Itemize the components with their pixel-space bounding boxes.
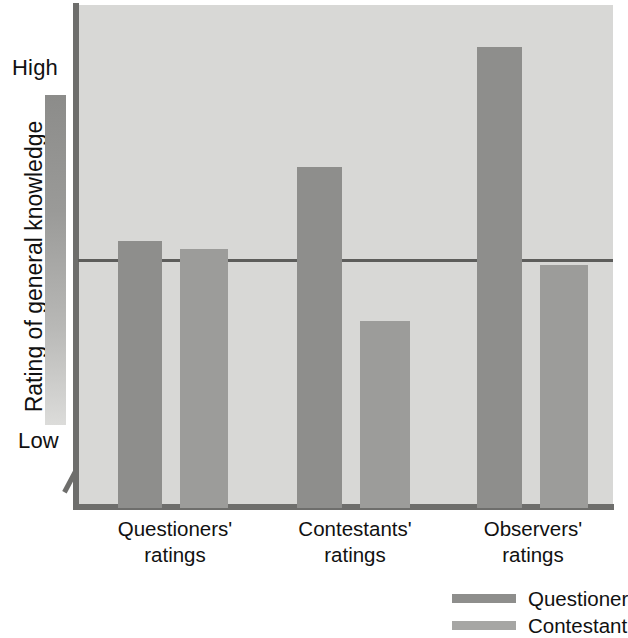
legend-item-contestant: Contestant [452, 612, 627, 638]
chart-legend: Questioner Contestant [452, 585, 627, 638]
x-axis-group-label-3: Observers'ratings [468, 516, 598, 568]
group-label-line-1: Questioners' [118, 517, 232, 540]
bar-contestant-2 [360, 321, 410, 508]
group-label-line-2: ratings [110, 542, 240, 568]
x-axis-group-label-2: Contestants'ratings [285, 516, 425, 568]
x-axis-group-label-1: Questioners'ratings [110, 516, 240, 568]
bar-questioner-2 [297, 167, 342, 508]
legend-item-questioner: Questioner [452, 585, 627, 612]
y-axis-title: Rating of general knowledge [21, 57, 48, 477]
group-label-line-2: ratings [468, 542, 598, 568]
y-axis-low-label: Low [18, 428, 59, 454]
bar-questioner-3 [477, 47, 522, 508]
group-label-line-1: Observers' [484, 517, 582, 540]
y-axis-line [73, 3, 79, 510]
bar-questioner-1 [118, 241, 162, 508]
legend-label-questioner: Questioner [528, 587, 628, 611]
legend-swatch-questioner-icon [452, 594, 516, 603]
group-label-line-2: ratings [285, 542, 425, 568]
bar-contestant-1 [180, 249, 228, 508]
legend-swatch-contestant-icon [452, 621, 516, 630]
y-axis-high-label: High [12, 55, 58, 81]
legend-label-contestant: Contestant [528, 614, 627, 638]
bar-contestant-3 [540, 265, 588, 508]
group-label-line-1: Contestants' [298, 517, 411, 540]
rating-gradient-key [45, 95, 66, 425]
